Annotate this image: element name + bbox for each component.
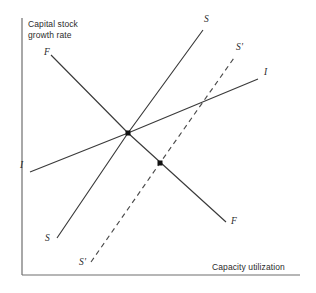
curve-f: [51, 55, 226, 222]
curve-s-prime: [91, 58, 234, 262]
initial-equilibrium-marker: [126, 131, 131, 136]
curve-label-s-prime-top: S': [236, 42, 243, 52]
curve-label-s-top: S: [204, 14, 209, 24]
new-equilibrium-marker: [158, 161, 163, 166]
x-axis-label: Capacity utilization: [212, 262, 285, 273]
curve-label-i-right: I: [264, 67, 267, 77]
curve-label-s-prime-bottom: S': [79, 257, 86, 267]
y-axis-label: Capital stock growth rate: [28, 19, 78, 41]
curve-label-i-left: I: [20, 160, 23, 170]
curve-label-f-right: F: [231, 216, 237, 226]
plot-canvas: [0, 0, 316, 293]
curve-i: [30, 79, 258, 172]
curve-label-s-bottom: S: [45, 233, 50, 243]
curve-label-f-top: F: [44, 47, 50, 57]
economics-diagram: Capital stock growth rate Capacity utili…: [0, 0, 316, 293]
